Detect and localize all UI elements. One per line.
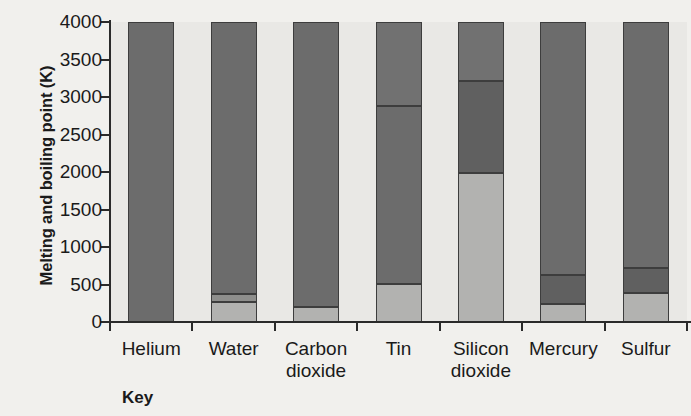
bar-segment[interactable]	[211, 22, 257, 294]
bar-segment[interactable]	[293, 22, 339, 307]
y-axis-tick-label: 2500	[30, 124, 110, 146]
x-axis-tick	[439, 322, 441, 331]
bar-segment[interactable]	[540, 275, 586, 305]
x-axis-line	[100, 321, 691, 323]
bar-tin[interactable]	[376, 22, 422, 322]
x-axis-tick	[109, 322, 111, 331]
plot-area	[110, 22, 687, 322]
bar-segment[interactable]	[376, 22, 422, 106]
x-axis-label-helium: Helium	[110, 338, 192, 360]
x-axis-label-mercury: Mercury	[522, 338, 604, 360]
bar-segment[interactable]	[623, 293, 669, 322]
x-axis-label-water: Water	[192, 338, 274, 360]
bar-helium[interactable]	[128, 22, 174, 322]
key-heading: Key	[122, 388, 153, 408]
y-axis-tick-label: 500	[30, 274, 110, 296]
bar-segment[interactable]	[293, 307, 339, 322]
bar-segment[interactable]	[623, 268, 669, 293]
x-axis-tick	[191, 322, 193, 331]
x-axis-tick	[356, 322, 358, 331]
y-axis-tick-label: 3500	[30, 49, 110, 71]
x-axis-tick	[686, 322, 688, 331]
x-axis-label-carbon-dioxide: Carbon dioxide	[275, 338, 357, 382]
chart-container: Melting and boiling point (K) 0500100015…	[0, 0, 691, 416]
bar-segment[interactable]	[623, 22, 669, 268]
bar-mercury[interactable]	[540, 22, 586, 322]
bar-sulfur[interactable]	[623, 22, 669, 322]
bar-segment[interactable]	[211, 302, 257, 322]
bar-segment[interactable]	[376, 106, 422, 284]
bar-segment[interactable]	[376, 284, 422, 322]
y-axis-tick-label: 2000	[30, 161, 110, 183]
bar-carbon-dioxide[interactable]	[293, 22, 339, 322]
bar-silicon-dioxide[interactable]	[458, 22, 504, 322]
bar-water[interactable]	[211, 22, 257, 322]
x-axis-label-silicon-dioxide: Silicon dioxide	[440, 338, 522, 382]
y-axis-tick-label: 1500	[30, 199, 110, 221]
bar-segment[interactable]	[540, 22, 586, 275]
y-axis-tick-label: 1000	[30, 236, 110, 258]
x-axis-label-sulfur: Sulfur	[605, 338, 687, 360]
y-axis-tick-label: 3000	[30, 86, 110, 108]
y-axis-tick-label: 0	[30, 311, 110, 333]
x-axis-tick	[604, 322, 606, 331]
x-axis-tick	[521, 322, 523, 331]
bar-segment[interactable]	[458, 173, 504, 322]
bar-segment[interactable]	[128, 22, 174, 322]
bar-segment[interactable]	[540, 304, 586, 322]
x-axis-tick	[274, 322, 276, 331]
bar-segment[interactable]	[458, 22, 504, 81]
bar-segment[interactable]	[211, 294, 257, 302]
bar-segment[interactable]	[458, 81, 504, 174]
x-axis-label-tin: Tin	[357, 338, 439, 360]
y-axis-tick-label: 4000	[30, 11, 110, 33]
